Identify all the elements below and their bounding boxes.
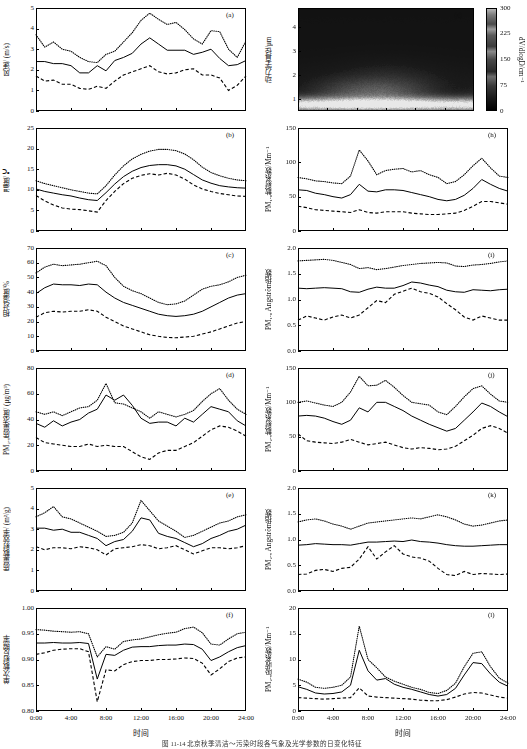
y-tick-c: 50 xyxy=(10,274,34,281)
x-tick-label: 4:00 xyxy=(57,715,85,722)
y-tickmark xyxy=(298,471,301,472)
series-layer-a xyxy=(36,8,246,111)
y-tick-c: 60 xyxy=(10,259,34,266)
y-tick-e: 4 xyxy=(10,505,34,512)
series-dashed-c xyxy=(36,310,246,338)
figure-caption: 图 11-14 北京秋季清洁～污染时段各气象及光学参数的日变化特征 xyxy=(0,738,524,748)
y-tick-l: 10 xyxy=(272,656,296,663)
series-solid-a xyxy=(36,38,246,73)
y-tick-e: 0 xyxy=(10,588,34,595)
y-tick-j: 150 xyxy=(272,365,296,372)
y-tick-f: 0.85 xyxy=(10,682,34,689)
y-tickmark xyxy=(298,591,301,592)
series-dashed-i xyxy=(298,288,508,320)
series-solid-e xyxy=(36,518,246,547)
x-tick-label: 4:00 xyxy=(319,715,347,722)
y-tick-b: 10 xyxy=(10,186,34,193)
y-tick-c: 0 xyxy=(10,348,34,355)
y-tick-i: 0.0 xyxy=(272,348,296,355)
y-tick-b: 15 xyxy=(10,166,34,173)
series-layer-b xyxy=(36,128,246,231)
series-dashed-b xyxy=(36,173,246,212)
panel-label-g: (g) xyxy=(454,11,462,19)
y-tick-h: 100 xyxy=(272,159,296,166)
y-tick-h: 50 xyxy=(272,193,296,200)
y-tick-k: 1.0 xyxy=(272,536,296,543)
y-tick-e: 5 xyxy=(10,485,34,492)
y-tickmark xyxy=(36,351,39,352)
y-tick-d: 60 xyxy=(10,390,34,397)
y-axis-label-j: PM₂.₅散射系数/Mm⁻¹ xyxy=(263,368,274,471)
y-tickmark xyxy=(298,75,301,76)
y-tick-c: 70 xyxy=(10,245,34,252)
y-tick-j: 50 xyxy=(272,433,296,440)
series-solid-c xyxy=(36,284,246,316)
y-tick-g: 3 xyxy=(272,48,296,55)
y-tick-d: 0 xyxy=(10,468,34,475)
series-layer-d xyxy=(36,368,246,471)
y-tick-d: 40 xyxy=(10,416,34,423)
y-tick-l: 20 xyxy=(272,605,296,612)
x-tickmark xyxy=(386,108,387,111)
series-dotted-f xyxy=(36,627,246,657)
series-dotted-l xyxy=(298,626,508,693)
colorbar-tick: 225 xyxy=(500,30,511,37)
series-dashed-d xyxy=(36,426,246,459)
x-tick-label: 16:00 xyxy=(424,715,452,722)
y-tick-c: 10 xyxy=(10,333,34,340)
series-dashed-h xyxy=(298,201,508,214)
y-tick-k: 2.0 xyxy=(272,485,296,492)
series-solid-b xyxy=(36,165,246,201)
y-tick-e: 1 xyxy=(10,567,34,574)
y-tick-d: 80 xyxy=(10,365,34,372)
y-tick-a: 4 xyxy=(10,25,34,32)
series-dashed-k xyxy=(298,546,508,576)
series-dotted-h xyxy=(298,150,508,184)
y-tick-a: 0 xyxy=(10,108,34,115)
series-layer-i xyxy=(298,248,508,351)
series-dashed-f xyxy=(36,649,246,702)
y-tick-c: 20 xyxy=(10,318,34,325)
y-axis-label-a: 风速/ (m/s) xyxy=(1,8,12,111)
x-tick-label: 20:00 xyxy=(197,715,225,722)
x-tickmark xyxy=(445,108,446,111)
y-tickmark xyxy=(298,27,301,28)
y-tick-b: 5 xyxy=(10,207,34,214)
y-tick-c: 30 xyxy=(10,303,34,310)
y-tick-g: 2 xyxy=(272,72,296,79)
y-tick-i: 1.0 xyxy=(272,296,296,303)
y-axis-label-h: PM₁.₀散射系数/Mm⁻¹ xyxy=(263,128,274,231)
series-layer-e xyxy=(36,488,246,591)
y-tick-e: 3 xyxy=(10,526,34,533)
y-tickmark xyxy=(36,231,39,232)
series-layer-c xyxy=(36,248,246,351)
y-tick-h: 0 xyxy=(272,228,296,235)
y-tick-a: 3 xyxy=(10,46,34,53)
y-axis-label-e: 质量散射效率/ (m²/g) xyxy=(1,488,12,591)
series-layer-j xyxy=(298,368,508,471)
y-tick-a: 1 xyxy=(10,87,34,94)
y-tick-k: 1.5 xyxy=(272,510,296,517)
y-tick-f: 1.00 xyxy=(10,605,34,612)
colorbar-tick: 0 xyxy=(500,108,504,115)
x-axis-name: 时间 xyxy=(373,727,433,738)
x-tick-label: 0:00 xyxy=(22,715,50,722)
y-tickmark xyxy=(36,711,39,712)
y-tick-i: 2.0 xyxy=(272,245,296,252)
y-tick-e: 2 xyxy=(10,546,34,553)
y-tick-k: 0.5 xyxy=(272,562,296,569)
series-solid-d xyxy=(36,395,246,427)
y-tick-i: 1.5 xyxy=(272,270,296,277)
y-tickmark xyxy=(36,471,39,472)
series-dashed-j xyxy=(298,426,508,450)
series-solid-l xyxy=(298,650,508,696)
series-dotted-b xyxy=(36,149,246,194)
y-tickmark xyxy=(36,111,39,112)
series-dashed-e xyxy=(36,545,246,555)
series-layer-k xyxy=(298,488,508,591)
y-tick-d: 20 xyxy=(10,442,34,449)
y-tick-f: 0.95 xyxy=(10,630,34,637)
colorbar xyxy=(486,8,497,111)
x-tick-label: 24:00 xyxy=(494,715,522,722)
series-dashed-l xyxy=(298,688,508,701)
